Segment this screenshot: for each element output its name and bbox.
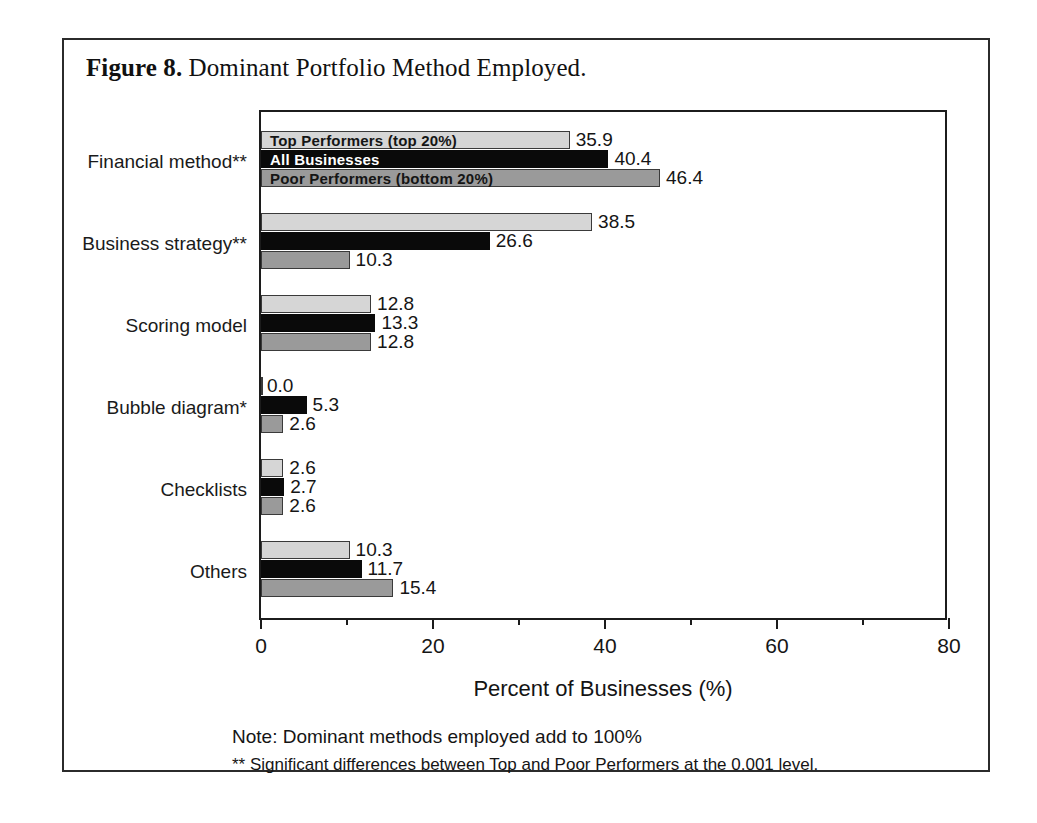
bar-value-label: 26.6	[490, 230, 533, 252]
bar-value-label: 0.0	[261, 375, 293, 397]
bar-value-label: 10.3	[350, 249, 393, 271]
x-tick-major	[776, 618, 778, 629]
bar-group: Bubble diagram*0.05.32.6	[261, 376, 945, 440]
x-tick-minor	[518, 618, 520, 625]
bar-row: 11.7	[261, 560, 945, 578]
bar-row: 10.3	[261, 541, 945, 559]
bar[interactable]	[261, 396, 307, 414]
bar-value-label: 40.4	[608, 148, 651, 170]
bar[interactable]	[261, 541, 350, 559]
category-label: Bubble diagram*	[0, 397, 247, 419]
bar[interactable]	[261, 333, 371, 351]
x-tick-minor	[690, 618, 692, 625]
bar[interactable]: Poor Performers (bottom 20%)	[261, 169, 660, 187]
bar-row: 5.3	[261, 396, 945, 414]
bar[interactable]	[261, 314, 375, 332]
note-line-2: ** Significant differences between Top a…	[232, 755, 932, 775]
bar-group: Checklists2.62.72.6	[261, 458, 945, 522]
bar-row: All Businesses40.4	[261, 150, 945, 168]
bar-value-label: 35.9	[570, 129, 613, 151]
category-label: Checklists	[0, 479, 247, 501]
bar-value-label: 12.8	[371, 331, 414, 353]
figure-caption: Figure 8. Dominant Portfolio Method Empl…	[86, 54, 587, 82]
bar[interactable]	[261, 579, 393, 597]
bar[interactable]	[261, 478, 284, 496]
x-tick-label: 0	[255, 634, 267, 658]
bar[interactable]	[261, 232, 490, 250]
bar-group: Financial method**Top Performers (top 20…	[261, 130, 945, 194]
bar-row: 0.0	[261, 377, 945, 395]
bar[interactable]	[261, 415, 283, 433]
bar-row: 12.8	[261, 295, 945, 313]
x-tick-label: 60	[765, 634, 788, 658]
bar-row: 38.5	[261, 213, 945, 231]
bar-value-label: 46.4	[660, 167, 703, 189]
bar-row: 2.6	[261, 459, 945, 477]
bar-row: 15.4	[261, 579, 945, 597]
bar-value-label: 2.6	[283, 495, 315, 517]
bar-group: Others10.311.715.4	[261, 540, 945, 604]
x-tick-major	[948, 618, 950, 629]
bar-row: 2.7	[261, 478, 945, 496]
x-axis-title: Percent of Businesses (%)	[259, 676, 947, 702]
category-label: Scoring model	[0, 315, 247, 337]
figure-caption-text: Dominant Portfolio Method Employed.	[182, 54, 586, 81]
bar[interactable]	[261, 459, 283, 477]
bar-value-label: 38.5	[592, 211, 635, 233]
x-tick-label: 80	[937, 634, 960, 658]
category-label: Business strategy**	[0, 233, 247, 255]
bar-value-label: 15.4	[393, 577, 436, 599]
bar-group: Business strategy**38.526.610.3	[261, 212, 945, 276]
x-tick-minor	[346, 618, 348, 625]
bar-group: Scoring model12.813.312.8	[261, 294, 945, 358]
figure-caption-label: Figure 8.	[86, 54, 182, 81]
bar-row: 12.8	[261, 333, 945, 351]
bar-row: 2.6	[261, 415, 945, 433]
bar[interactable]	[261, 295, 371, 313]
bar-row: Poor Performers (bottom 20%)46.4	[261, 169, 945, 187]
bar[interactable]	[261, 251, 350, 269]
note-line-1: Note: Dominant methods employed add to 1…	[232, 726, 932, 748]
category-label: Others	[0, 561, 247, 583]
bar[interactable]	[261, 213, 592, 231]
bar-row: 2.6	[261, 497, 945, 515]
bar-row: 10.3	[261, 251, 945, 269]
legend-label-top: Top Performers (top 20%)	[270, 132, 457, 150]
bar-row: 26.6	[261, 232, 945, 250]
bar[interactable]	[261, 560, 362, 578]
x-tick-minor	[862, 618, 864, 625]
chart-plot-area: Financial method**Top Performers (top 20…	[259, 110, 947, 620]
x-tick-major	[432, 618, 434, 629]
category-label: Financial method**	[0, 151, 247, 173]
bar[interactable]: Top Performers (top 20%)	[261, 131, 570, 149]
x-tick-major	[604, 618, 606, 629]
x-tick-major	[260, 618, 262, 629]
x-tick-label: 20	[421, 634, 444, 658]
bar[interactable]	[261, 497, 283, 515]
legend-label-poor: Poor Performers (bottom 20%)	[270, 170, 493, 188]
legend-label-all: All Businesses	[270, 151, 380, 169]
bar-value-label: 2.6	[283, 413, 315, 435]
figure-notes: Note: Dominant methods employed add to 1…	[232, 726, 932, 775]
bar-row: 13.3	[261, 314, 945, 332]
figure-frame: Figure 8. Dominant Portfolio Method Empl…	[62, 38, 990, 772]
bar[interactable]: All Businesses	[261, 150, 608, 168]
bar-row: Top Performers (top 20%)35.9	[261, 131, 945, 149]
x-tick-label: 40	[593, 634, 616, 658]
